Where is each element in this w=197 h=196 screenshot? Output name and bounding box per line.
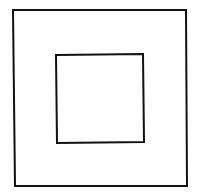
concentric-squares-diagram	[0, 0, 197, 196]
background	[0, 0, 197, 196]
